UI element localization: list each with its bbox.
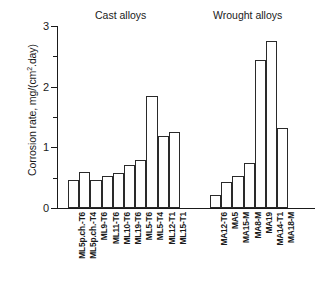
bar <box>146 96 157 208</box>
bar <box>266 41 277 208</box>
y-axis-title: Corrosion rate, mg/(cm2.day) <box>26 15 38 205</box>
bar <box>277 128 288 208</box>
category-label: ML5-T4 <box>155 212 165 240</box>
group-title-wrought: Wrought alloys <box>213 9 282 21</box>
category-label: MA14-T1 <box>275 212 285 246</box>
category-label: ML5-T6 <box>144 212 154 240</box>
category-label: MA12-T6 <box>219 212 229 246</box>
category-label: ML19-T6 <box>133 212 143 245</box>
y-tick-label: 1 <box>43 142 49 153</box>
category-label: MA5 <box>230 212 240 229</box>
category-label: ML9-T6 <box>99 212 109 240</box>
category-label: ML12-T1 <box>167 212 177 245</box>
bar <box>90 180 101 208</box>
category-label: ML10-T6 <box>122 212 132 245</box>
y-tick-minor <box>53 117 57 118</box>
bar <box>135 160 146 208</box>
x-axis-line <box>57 208 315 209</box>
category-label: MA19 <box>264 212 274 234</box>
y-tick-major <box>51 26 57 27</box>
bar <box>232 176 243 208</box>
category-label: ML15-T1 <box>178 212 188 245</box>
category-label: ML5p.ch.-T6 <box>77 212 87 259</box>
category-label: ML5p.ch.-T4 <box>88 212 98 259</box>
bar <box>102 176 113 208</box>
y-axis-title-pre: Corrosion rate, mg/(cm <box>26 71 38 176</box>
bar <box>221 182 232 208</box>
y-tick-major <box>51 147 57 148</box>
bar <box>255 60 266 208</box>
y-tick-label: 2 <box>43 81 49 92</box>
bar <box>169 132 180 208</box>
group-title-cast: Cast alloys <box>95 9 146 21</box>
y-axis-title-superscript: 2 <box>26 67 33 71</box>
category-label: MA15-M <box>241 212 251 243</box>
bar <box>210 195 221 208</box>
bar <box>244 163 255 208</box>
category-label: ML11-T6 <box>111 212 121 244</box>
category-label: MA8-M <box>253 212 263 238</box>
bar <box>79 172 90 208</box>
y-tick-label: 0 <box>43 203 49 214</box>
bar <box>68 180 79 208</box>
bar <box>113 173 124 208</box>
bar <box>124 165 135 208</box>
plot-area: 0123 <box>57 26 315 208</box>
y-tick-major <box>51 87 57 88</box>
y-tick-major <box>51 208 57 209</box>
y-axis-line <box>57 26 58 209</box>
bar <box>158 136 169 208</box>
y-tick-label: 3 <box>43 21 49 32</box>
y-tick-minor <box>53 56 57 57</box>
y-axis-title-post: .day) <box>26 44 38 67</box>
category-label: MA18-M <box>286 212 296 243</box>
y-tick-minor <box>53 178 57 179</box>
corrosion-rate-bar-chart: Corrosion rate, mg/(cm2.day) Cast alloys… <box>0 0 326 283</box>
